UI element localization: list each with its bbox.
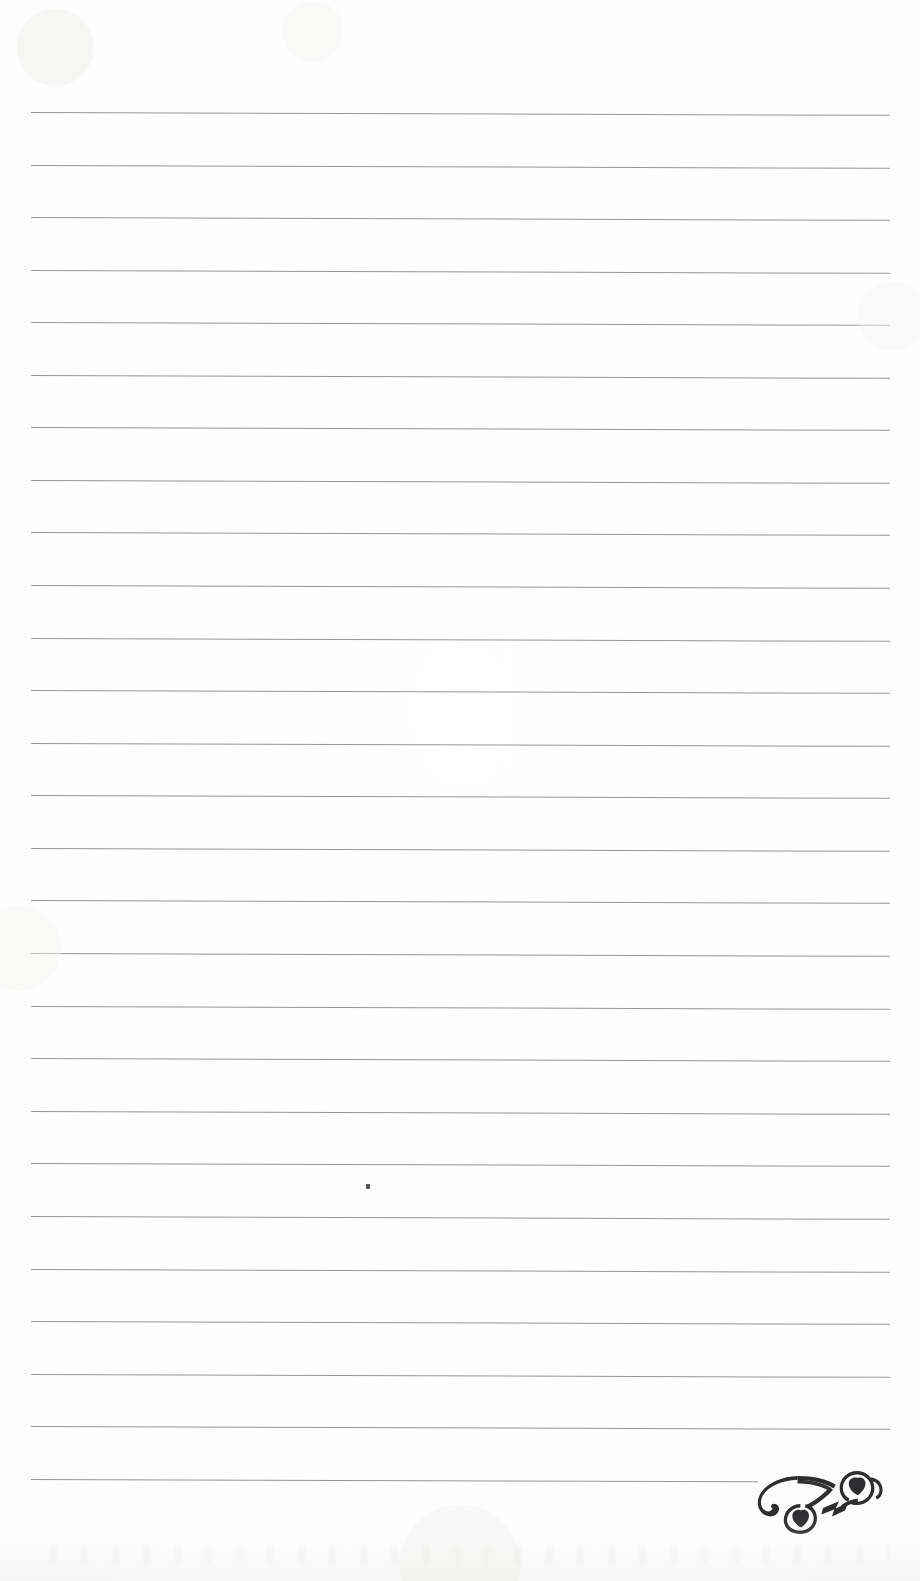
ruled-line [31, 795, 890, 799]
ruled-line [31, 690, 890, 694]
ruled-line [31, 1111, 890, 1115]
ruled-line [31, 375, 890, 379]
corner-flourish-ornament [753, 1468, 888, 1534]
ruled-line [31, 900, 890, 904]
ruled-line [31, 480, 890, 484]
ruled-line [31, 165, 890, 169]
scan-speck-artifact [366, 1184, 370, 1189]
ruled-line [31, 112, 890, 116]
ruled-line [31, 217, 890, 221]
ruled-line [31, 1269, 890, 1273]
ruled-line [31, 1216, 890, 1220]
ruled-line [31, 1321, 890, 1325]
ruled-line [31, 848, 890, 852]
lined-page [0, 0, 920, 1581]
ruled-line [31, 1058, 890, 1062]
ruled-line [31, 743, 890, 747]
ruled-line [31, 1374, 890, 1378]
ruled-line [31, 427, 890, 431]
ruled-line [31, 532, 890, 536]
ruled-line [31, 585, 890, 589]
scan-noise-overlay [0, 0, 920, 1581]
ruled-line [31, 1163, 890, 1167]
ruled-line [31, 953, 890, 957]
ruled-line [31, 638, 890, 642]
ruled-line [31, 1479, 758, 1482]
ruled-line [31, 1426, 890, 1430]
paper-texture [0, 0, 920, 1581]
ruled-line [31, 322, 890, 326]
flourish-icon [753, 1468, 888, 1534]
ruled-line [31, 1006, 890, 1010]
ruled-line [31, 270, 890, 274]
